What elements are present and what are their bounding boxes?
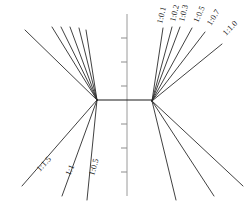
ray-lower-left-1: [22, 100, 97, 186]
ray-label-1-0-5-lower: 1:0.5: [87, 158, 100, 177]
ray-label-1-1: 1:1: [64, 163, 77, 176]
ray-upper-left-1: [25, 30, 97, 100]
ray-lower-right-3: [152, 101, 243, 186]
ray-upper-right-5: [152, 32, 205, 101]
ray-upper-left-5: [79, 28, 97, 100]
upper-left-fan: [25, 27, 97, 100]
ray-upper-right-2: [152, 27, 172, 101]
ray-label-1-0-5: 1:0.5: [192, 5, 207, 24]
ray-label-1-1-0: 1:1.0: [221, 19, 239, 38]
ray-label-1-1-5: 1:1.5: [35, 155, 53, 174]
ray-label-1-0-7: 1:0.7: [205, 8, 222, 27]
lower-left-fan: [22, 100, 97, 200]
ray-upper-right-4: [152, 28, 192, 101]
ray-label-1-0-1: 1:0.1: [155, 6, 168, 25]
ray-lower-right-2: [152, 101, 214, 196]
upper-right-fan: [152, 27, 222, 101]
upper-right-labels: 1:0.1 1:0.2 1:0.3 1:0.5 1:0.7 1:1.0: [155, 4, 239, 38]
center-axis-group: [121, 14, 127, 196]
ray-lower-right-1: [152, 101, 176, 200]
lower-right-fan: [152, 101, 243, 200]
ray-fan-diagram: 1:0.1 1:0.2 1:0.3 1:0.5 1:0.7 1:1.0 1:1.…: [0, 0, 250, 205]
diagram-canvas: 1:0.1 1:0.2 1:0.3 1:0.5 1:0.7 1:1.0 1:1.…: [0, 0, 250, 205]
